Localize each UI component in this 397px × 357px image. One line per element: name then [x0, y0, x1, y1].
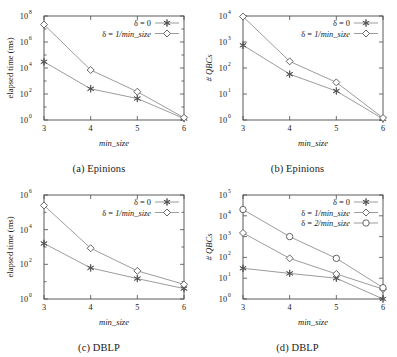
legend-label: δ = 0 — [134, 198, 151, 207]
svg-text:10: 10 — [20, 90, 28, 99]
svg-text:10: 10 — [218, 191, 226, 200]
legend-label: δ = 0 — [332, 198, 349, 207]
data-point — [134, 275, 140, 282]
legend-label: δ = 1/min_size — [301, 30, 350, 39]
svg-text:10: 10 — [218, 38, 226, 47]
svg-text:10: 10 — [218, 116, 226, 125]
legend-label: δ = 1/min_size — [102, 208, 151, 217]
data-point — [239, 42, 245, 49]
data-point — [332, 79, 339, 86]
legend-marker-diamond — [164, 30, 171, 37]
data-point — [41, 58, 47, 65]
chart-svg-b: 1001011021031043456min_size# QBCsδ = 0δ … — [199, 0, 397, 178]
chart-svg-c: 1001021041063456min_sizeelapsed time (ms… — [0, 179, 198, 357]
svg-text:10: 10 — [218, 12, 226, 21]
legend-item-2: δ = 1/min_size — [102, 208, 179, 217]
x-axis-title: min_size — [297, 317, 327, 327]
series-1 — [41, 58, 187, 122]
y-axis-title: # QBCs — [204, 54, 214, 82]
legend-marker-diamond — [362, 209, 369, 216]
y-tick-label: 104 — [218, 208, 230, 220]
svg-text:8: 8 — [29, 9, 32, 15]
legend-item-2: δ = 1/min_size — [102, 30, 179, 39]
legend-label: δ = 0 — [332, 19, 349, 28]
data-point — [88, 264, 94, 271]
x-tick-label: 4 — [287, 303, 291, 312]
x-axis-title: min_size — [99, 138, 129, 148]
svg-text:5: 5 — [228, 188, 231, 194]
x-tick-label: 6 — [182, 303, 186, 312]
svg-text:10: 10 — [20, 191, 28, 200]
x-axis-title: min_size — [297, 138, 327, 148]
y-tick-label: 103 — [218, 35, 230, 47]
legend-item-3: δ = 2/min_size — [301, 219, 378, 228]
legend-item-1: δ = 0 — [332, 198, 377, 207]
svg-text:10: 10 — [20, 260, 28, 269]
y-tick-label: 102 — [20, 257, 32, 269]
x-tick-label: 3 — [240, 124, 244, 133]
y-tick-label: 102 — [218, 250, 230, 262]
y-tick-label: 100 — [218, 292, 230, 304]
y-tick-label: 102 — [218, 61, 230, 73]
svg-text:3: 3 — [228, 229, 231, 235]
chart-panel-d: 1001011021031041053456min_size# QBCsδ = … — [199, 179, 397, 357]
x-tick-label: 6 — [380, 124, 384, 133]
series-2 — [239, 229, 386, 292]
series-line — [243, 268, 383, 299]
svg-text:1: 1 — [228, 87, 231, 93]
svg-text:10: 10 — [218, 274, 226, 283]
data-point — [286, 71, 292, 78]
svg-text:2: 2 — [29, 257, 32, 263]
svg-text:10: 10 — [218, 211, 226, 220]
legend-item-1: δ = 0 — [134, 19, 179, 28]
x-tick-label: 5 — [135, 124, 139, 133]
y-tick-label: 102 — [20, 87, 32, 99]
svg-text:4: 4 — [29, 61, 32, 67]
svg-text:0: 0 — [29, 292, 32, 298]
x-tick-label: 3 — [42, 124, 46, 133]
y-tick-label: 104 — [20, 222, 32, 234]
x-tick-label: 3 — [240, 303, 244, 312]
series-1 — [239, 264, 385, 302]
chart-svg-d: 1001011021031041053456min_size# QBCsδ = … — [199, 179, 397, 357]
data-point — [379, 284, 385, 290]
legend-label: δ = 1/min_size — [301, 208, 350, 217]
y-tick-label: 106 — [20, 188, 32, 200]
data-point — [239, 229, 246, 236]
data-point — [333, 87, 339, 94]
legend-label: δ = 0 — [134, 19, 151, 28]
data-point — [88, 85, 94, 92]
data-point — [41, 239, 47, 246]
legend-item-2: δ = 1/min_size — [301, 208, 378, 217]
x-tick-label: 5 — [334, 303, 338, 312]
series-line — [44, 243, 184, 288]
x-axis-title: min_size — [99, 317, 129, 327]
svg-text:4: 4 — [29, 222, 32, 228]
svg-text:6: 6 — [29, 35, 32, 41]
x-tick-label: 5 — [334, 124, 338, 133]
y-tick-label: 105 — [218, 188, 230, 200]
legend-item-1: δ = 0 — [134, 198, 179, 207]
svg-text:0: 0 — [29, 113, 32, 119]
y-axis-title: elapsed time (ms) — [5, 37, 15, 98]
svg-text:10: 10 — [218, 232, 226, 241]
svg-text:2: 2 — [228, 250, 231, 256]
svg-text:6: 6 — [29, 188, 32, 194]
y-tick-label: 104 — [218, 9, 230, 21]
data-point — [134, 95, 140, 102]
svg-text:4: 4 — [228, 9, 231, 15]
svg-text:10: 10 — [20, 225, 28, 234]
svg-text:1: 1 — [228, 271, 231, 277]
svg-text:0: 0 — [228, 292, 231, 298]
svg-text:3: 3 — [228, 35, 231, 41]
y-tick-label: 100 — [20, 113, 32, 125]
data-point — [134, 267, 141, 274]
y-tick-label: 101 — [218, 87, 230, 99]
y-axis-title: # QBCs — [204, 232, 214, 260]
y-tick-label: 104 — [20, 61, 32, 73]
y-tick-label: 106 — [20, 35, 32, 47]
svg-text:2: 2 — [228, 61, 231, 67]
series-1 — [41, 239, 187, 291]
x-tick-label: 4 — [287, 124, 291, 133]
series-line — [44, 62, 184, 119]
